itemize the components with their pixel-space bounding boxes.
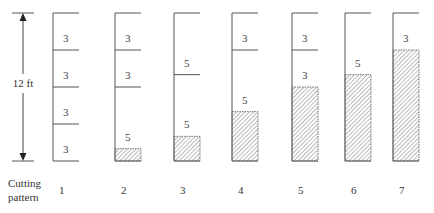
pattern-number: 5 <box>298 184 304 196</box>
arrow-up-icon <box>20 13 27 21</box>
row-label-line2: pattern <box>8 191 39 203</box>
pattern-number: 6 <box>351 184 357 196</box>
piece-length-label: 5 <box>242 94 248 106</box>
piece-length-label: 3 <box>63 106 69 118</box>
pattern-4: 534 <box>232 13 258 196</box>
waste-region <box>345 75 371 161</box>
pattern-1: 33331 <box>53 13 79 196</box>
pattern-3: 553 <box>174 13 200 196</box>
piece-length-label: 3 <box>63 32 69 44</box>
cutting-pattern-diagram: 12 ft Cutting pattern 333315332553534335… <box>0 0 434 213</box>
piece-length-label: 3 <box>302 32 308 44</box>
dimension-label: 12 ft <box>13 77 33 89</box>
waste-region <box>115 149 141 161</box>
piece-length-label: 5 <box>184 118 190 130</box>
waste-region <box>393 50 419 161</box>
piece-length-label: 3 <box>125 69 131 81</box>
pattern-number: 4 <box>238 184 244 196</box>
dimension-arrow: 12 ft <box>12 13 34 161</box>
piece-length-label: 5 <box>355 57 361 69</box>
piece-length-label: 5 <box>125 131 131 143</box>
waste-region <box>292 87 318 161</box>
piece-length-label: 3 <box>242 32 248 44</box>
pattern-6: 56 <box>345 13 371 196</box>
piece-length-label: 3 <box>302 69 308 81</box>
piece-length-label: 5 <box>184 57 190 69</box>
pattern-bars: 3333153325535343355637 <box>53 13 419 196</box>
pattern-2: 5332 <box>115 13 141 196</box>
piece-length-label: 3 <box>63 69 69 81</box>
pattern-number: 2 <box>121 184 127 196</box>
pattern-7: 37 <box>393 13 419 196</box>
waste-region <box>232 112 258 161</box>
piece-length-label: 3 <box>125 32 131 44</box>
pattern-5: 335 <box>292 13 318 196</box>
waste-region <box>174 136 200 161</box>
arrow-down-icon <box>20 153 27 161</box>
pattern-number: 3 <box>180 184 186 196</box>
piece-length-label: 3 <box>63 143 69 155</box>
row-label-line1: Cutting <box>8 177 42 189</box>
pattern-number: 1 <box>59 184 65 196</box>
piece-length-label: 3 <box>403 32 409 44</box>
pattern-number: 7 <box>399 184 405 196</box>
